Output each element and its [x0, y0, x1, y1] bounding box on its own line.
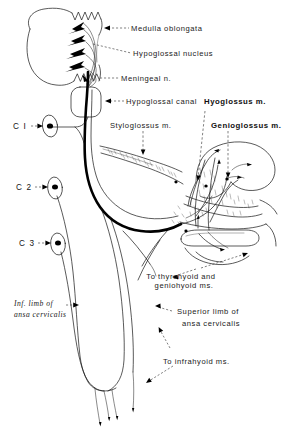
- label-c2: C 2: [16, 183, 32, 192]
- label-superior-limb-line1: Superior limb of: [177, 307, 239, 316]
- label-c3: C 3: [19, 239, 35, 248]
- leader-infrahyoid: [146, 327, 173, 383]
- label-c1: C I: [13, 122, 27, 131]
- leader-medulla-oblongata: [104, 25, 129, 30]
- label-meningeal-n: Meningeal n.: [121, 74, 171, 83]
- label-inf-limb-line1: Inf. limb of: [13, 299, 53, 308]
- thyrohyoid-geniohyoid-branch: [123, 231, 156, 276]
- infrahyoid-branches: [95, 372, 134, 427]
- spinal-ganglion-c2: [47, 176, 64, 199]
- leader-styloglossus: [141, 131, 146, 155]
- styloglossus-muscle: [100, 146, 183, 184]
- c1-arrow: [31, 124, 43, 129]
- label-hypoglossal-canal: Hypoglossal canal: [126, 97, 197, 106]
- leader-hypoglossal-nucleus: [93, 44, 131, 53]
- label-medulla-oblongata: Medulla oblongata: [131, 24, 203, 33]
- label-inf-limb-line2: ansa cervicalis: [14, 310, 67, 319]
- leader-superior-limb-ansa: [155, 304, 172, 311]
- hypoglossal-nerve-trunk: [85, 72, 181, 232]
- leader-hyoglossus: [196, 111, 205, 181]
- label-genioglossus-m: Genioglossus m.: [211, 121, 281, 130]
- leader-inf-limb-ansa: [66, 303, 79, 308]
- label-thyrohyoid-line2: geniohyoid ms.: [155, 281, 214, 290]
- hypoglossal-nerve-figure: Medulla oblongata Hypoglossal nucleus Me…: [0, 0, 285, 439]
- leader-genioglossus: [226, 131, 231, 178]
- c2-arrow: [35, 185, 48, 190]
- c3-arrow: [38, 241, 51, 246]
- leader-hypoglossal-canal: [105, 98, 124, 103]
- spinal-ganglion-c1: [41, 114, 59, 138]
- label-to-infrahyoid: To infrahyoid ms.: [163, 357, 230, 366]
- label-hyoglossus-m: Hyoglossus m.: [204, 97, 266, 106]
- label-thyrohyoid-line1: To thyrohyoid and: [146, 272, 215, 281]
- spinal-ganglion-c3: [50, 232, 67, 255]
- diagram-canvas: Medulla oblongata Hypoglossal nucleus Me…: [0, 0, 285, 439]
- label-hypoglossal-nucleus: Hypoglossal nucleus: [133, 49, 213, 58]
- label-styloglossus-m: Styloglossus m.: [110, 121, 171, 130]
- label-superior-limb-line2: ansa cervicalis: [182, 319, 240, 328]
- hypoglossal-rootlets: [65, 22, 96, 87]
